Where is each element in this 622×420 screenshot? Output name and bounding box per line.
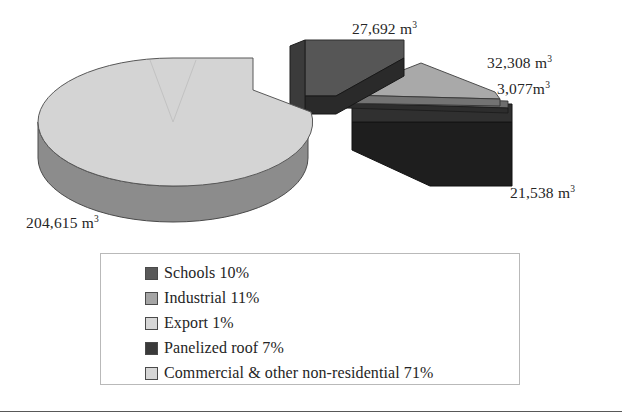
legend-swatch-icon (145, 367, 158, 380)
legend-item-label: Schools 10% (164, 264, 249, 282)
legend-item-panelized-roof: Panelized roof 7% (145, 336, 434, 360)
legend-swatch-icon (145, 317, 158, 330)
value-label-panelized-roof: 21,538 m3 (510, 184, 575, 202)
chart-legend: Schools 10% Industrial 11% Export 1% Pan… (100, 253, 520, 385)
legend-swatch-icon (145, 267, 158, 280)
legend-item-export: Export 1% (145, 311, 434, 335)
page-divider-rule (0, 411, 622, 412)
legend-list: Schools 10% Industrial 11% Export 1% Pan… (145, 261, 434, 385)
value-label-export: 3,077m3 (497, 80, 550, 98)
superscript-3: 3 (412, 20, 417, 30)
legend-item-label: Export 1% (164, 314, 234, 332)
chart-plot-area: 27,692 m3 32,308 m3 3,077m3 21,538 m3 20… (0, 0, 622, 248)
superscript-3: 3 (570, 184, 575, 194)
pie-slice-panelized-roof (352, 104, 512, 186)
legend-item-industrial: Industrial 11% (145, 286, 434, 310)
superscript-3: 3 (545, 80, 550, 90)
superscript-3: 3 (94, 214, 99, 224)
legend-swatch-icon (145, 292, 158, 305)
legend-swatch-icon (145, 342, 158, 355)
value-label-schools: 27,692 m3 (352, 20, 417, 38)
pie-chart-figure: 27,692 m3 32,308 m3 3,077m3 21,538 m3 20… (0, 0, 622, 420)
legend-item-commercial: Commercial & other non-residential 71% (145, 361, 434, 385)
legend-item-schools: Schools 10% (145, 261, 434, 285)
legend-item-label: Panelized roof 7% (164, 339, 284, 357)
legend-item-label: Industrial 11% (164, 289, 259, 307)
value-label-industrial: 32,308 m3 (487, 54, 552, 72)
pie-slice-commercial (38, 58, 313, 222)
value-label-commercial: 204,615 m3 (26, 214, 99, 232)
legend-item-label: Commercial & other non-residential 71% (164, 364, 434, 382)
pie-chart-svg (0, 0, 622, 248)
superscript-3: 3 (547, 54, 552, 64)
